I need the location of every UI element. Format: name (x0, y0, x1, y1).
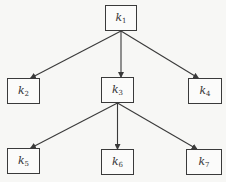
node-k2: k2 (7, 78, 40, 104)
edge-k1-k4 (121, 31, 198, 78)
node-k6: k6 (101, 149, 134, 175)
edge-k3-k7 (118, 103, 197, 149)
node-label: k3 (112, 83, 123, 97)
edge-k3-k5 (31, 103, 118, 148)
node-k3: k3 (101, 77, 134, 103)
node-label: k1 (115, 11, 126, 25)
node-k7: k7 (186, 149, 222, 175)
node-label: k6 (112, 155, 123, 169)
node-label: k2 (18, 84, 29, 98)
node-k5: k5 (7, 148, 40, 174)
node-label: k4 (199, 84, 210, 98)
node-k4: k4 (188, 78, 222, 104)
node-k1: k1 (105, 5, 137, 31)
node-label: k7 (198, 155, 209, 169)
edge-k1-k2 (31, 31, 121, 78)
node-label: k5 (18, 154, 29, 168)
